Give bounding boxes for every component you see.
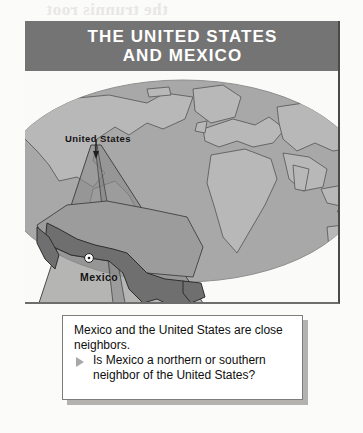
mexico-city-marker-icon [85,254,94,263]
figure-title-line-1: THE UNITED STATES [88,27,278,46]
figure-title-line-2: AND MEXICO [88,46,278,65]
world-map: United States Mexico Mexico City [25,71,340,302]
callout-box: Mexico and the United States are close n… [62,315,303,400]
figure-title-band: THE UNITED STATES AND MEXICO [25,21,340,71]
scanned-page: the trunnis root A. How are country step… [0,0,363,433]
magnifier-cone [25,77,340,302]
map-label-mexico: Mexico [80,271,118,283]
callout-lead-text: Mexico and the United States are close n… [74,323,292,352]
triangle-right-icon [76,357,84,367]
bleed-through-text-top: the trunnis root [46,0,168,20]
callout-question-text: Is Mexico a northern or southern neighbo… [93,353,292,382]
figure-frame: THE UNITED STATES AND MEXICO [25,21,340,304]
figure-title: THE UNITED STATES AND MEXICO [88,27,278,65]
callout-question-item: Is Mexico a northern or southern neighbo… [74,353,292,382]
map-label-united-states: United States [65,133,131,144]
